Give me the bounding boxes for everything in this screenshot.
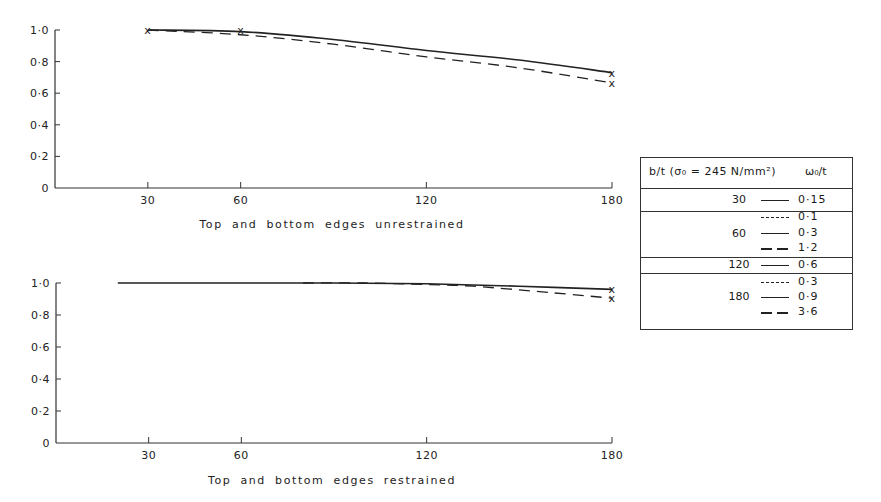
- line-sample-solid: [761, 297, 789, 298]
- legend-w-value: 0·15: [798, 193, 827, 206]
- x-tick-label: 30: [140, 194, 155, 207]
- legend-w-value: 0·6: [798, 258, 819, 271]
- line-sample-short-dash: [761, 282, 789, 283]
- y-tick-label: 0·4: [30, 119, 49, 132]
- x-marker: x: [608, 77, 615, 90]
- chart-caption: Top and bottom edges unrestrained: [198, 218, 464, 231]
- x-tick-label: 60: [234, 449, 249, 462]
- legend-group-30: 30 0·15: [641, 189, 852, 212]
- chart-caption: Top and bottom edges restrained: [207, 474, 456, 487]
- line-sample-short-dash: [761, 217, 789, 218]
- legend-group-180: 180 0·3 0·9 3·6: [641, 274, 852, 330]
- legend-w-value: 0·3: [798, 275, 819, 288]
- legend-bt-value: 30: [709, 193, 769, 206]
- legend-w-value: 0·1: [798, 210, 819, 223]
- y-tick-label: 1·0: [30, 24, 49, 37]
- x-tick-label: 180: [601, 194, 624, 207]
- legend-group-60: 60 0·1 0·3 1·2: [641, 211, 852, 258]
- chart-2: 00·20·40·60·81·03060120180Top and bottom…: [31, 277, 623, 487]
- x-marker: x: [608, 292, 615, 305]
- x-tick-label: 60: [233, 194, 248, 207]
- series-line-solid: [148, 30, 612, 73]
- line-sample-solid: [761, 233, 789, 234]
- legend-header-w: ω₀/t: [805, 165, 827, 178]
- line-sample-long-dash: [761, 248, 789, 250]
- legend-w-value: 3·6: [798, 305, 819, 318]
- x-marker: x: [144, 24, 151, 37]
- y-tick-label: 0: [43, 437, 51, 450]
- y-tick-label: 0·8: [30, 56, 49, 69]
- line-sample-solid: [761, 265, 789, 266]
- y-tick-label: 0·6: [30, 87, 49, 100]
- y-tick-label: 0·2: [30, 150, 49, 163]
- y-tick-label: 1·0: [31, 277, 50, 290]
- legend-header-row: b/t (σ₀ = 245 N/mm²) ω₀/t: [641, 158, 852, 189]
- x-tick-label: 120: [415, 449, 438, 462]
- y-tick-label: 0·6: [31, 341, 50, 354]
- x-tick-label: 120: [415, 194, 438, 207]
- y-tick-label: 0·4: [31, 373, 50, 386]
- legend-header-bt: b/t (σ₀ = 245 N/mm²): [649, 165, 776, 178]
- legend-w-value: 1·2: [798, 241, 819, 254]
- x-tick-label: 30: [141, 449, 156, 462]
- legend-group-120: 120 0·6: [641, 257, 852, 274]
- series-line-dashed: [148, 30, 612, 83]
- line-sample-long-dash: [761, 312, 789, 314]
- x-marker: x: [237, 24, 244, 37]
- y-tick-label: 0·8: [31, 309, 50, 322]
- legend-bt-value: 120: [709, 258, 769, 271]
- legend-w-value: 0·3: [798, 226, 819, 239]
- chart-1: 00·20·40·60·81·03060120180Top and bottom…: [30, 24, 623, 231]
- legend-bt-value: 60: [709, 227, 769, 240]
- legend-w-value: 0·9: [798, 290, 819, 303]
- series-line-solid: [118, 283, 612, 289]
- x-tick-label: 180: [601, 449, 624, 462]
- line-sample-solid: [761, 200, 789, 201]
- series-line-dashed: [303, 283, 612, 298]
- legend-table: b/t (σ₀ = 245 N/mm²) ω₀/t 30 0·15 60 0·1…: [640, 157, 853, 330]
- y-tick-label: 0·2: [31, 405, 50, 418]
- y-tick-label: 0: [42, 182, 50, 195]
- legend-bt-value: 180: [709, 290, 769, 303]
